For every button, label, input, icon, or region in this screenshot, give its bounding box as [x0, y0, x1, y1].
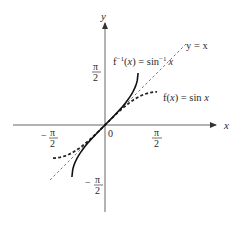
svg-text:π: π	[154, 127, 159, 138]
svg-text:2: 2	[95, 185, 100, 196]
svg-text:π: π	[50, 127, 55, 138]
tick-y-pi-over-2: π 2	[92, 61, 101, 83]
inverse-sine-diagram: x y 0 π 2 − π 2 π 2 − π 2 y = x f(x) = s…	[0, 0, 244, 226]
svg-text:−: −	[41, 130, 47, 141]
tick-x-neg-pi-over-2: − π 2	[41, 127, 58, 149]
sine-curve-label: f(x) = sin x	[163, 92, 209, 104]
tick-y-neg-pi-over-2: − π 2	[85, 174, 103, 196]
svg-text:2: 2	[50, 138, 55, 149]
svg-text:π: π	[93, 61, 98, 72]
origin-label: 0	[108, 128, 113, 139]
tick-x-pi-over-2: π 2	[152, 127, 162, 149]
svg-text:2: 2	[93, 72, 98, 83]
identity-line-label: y = x	[186, 40, 208, 51]
x-axis-label: x	[223, 119, 229, 131]
svg-text:2: 2	[154, 138, 159, 149]
svg-text:−: −	[85, 177, 91, 188]
svg-text:π: π	[95, 174, 100, 185]
y-axis-label: y	[100, 10, 106, 22]
